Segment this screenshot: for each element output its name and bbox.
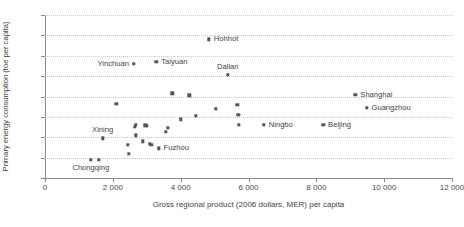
y-axis-tick bbox=[41, 97, 45, 98]
data-point-label: Guangzhou bbox=[372, 104, 411, 112]
x-axis-tick bbox=[45, 178, 46, 182]
data-point bbox=[207, 38, 210, 41]
data-point-label: Xining bbox=[92, 126, 113, 134]
x-axis-tick bbox=[384, 178, 385, 182]
y-axis-tick bbox=[41, 15, 45, 16]
data-point bbox=[214, 107, 217, 110]
data-point bbox=[262, 123, 265, 126]
data-point bbox=[134, 134, 137, 137]
data-point bbox=[236, 103, 239, 106]
x-axis-tick bbox=[452, 178, 453, 182]
data-point bbox=[97, 158, 100, 161]
x-axis-tick-label: 0 bbox=[43, 184, 47, 192]
x-axis-tick bbox=[181, 178, 182, 182]
data-point bbox=[101, 137, 104, 140]
data-point bbox=[127, 152, 130, 155]
x-axis-tick-label: 8 000 bbox=[306, 184, 326, 192]
x-axis-tick-label: 12 000 bbox=[440, 184, 464, 192]
data-point bbox=[126, 143, 129, 146]
y-axis-tick bbox=[41, 158, 45, 159]
data-point bbox=[179, 118, 182, 121]
y-axis-tick bbox=[41, 76, 45, 77]
y-axis-tick bbox=[41, 35, 45, 36]
x-axis-tick-label: 4 000 bbox=[171, 184, 191, 192]
data-point-label: Shanghai bbox=[360, 91, 392, 99]
data-point-label: Fuzhou bbox=[164, 144, 189, 152]
gridline bbox=[45, 137, 452, 139]
data-point bbox=[115, 102, 118, 105]
y-axis-tick bbox=[41, 137, 45, 138]
data-point-label: Ningbo bbox=[269, 121, 293, 129]
data-point-label: Taiyuan bbox=[161, 58, 187, 66]
gridline bbox=[45, 76, 452, 78]
data-point bbox=[164, 130, 167, 133]
data-point-label: Yinchuan bbox=[97, 60, 128, 68]
data-point bbox=[237, 123, 240, 126]
x-axis-tick-label: 6 000 bbox=[238, 184, 258, 192]
data-point bbox=[321, 123, 324, 126]
data-point bbox=[194, 114, 197, 117]
data-point bbox=[132, 62, 135, 65]
gridline bbox=[45, 158, 452, 160]
data-point bbox=[226, 73, 229, 76]
data-point bbox=[187, 94, 190, 97]
data-point bbox=[134, 123, 137, 126]
data-point bbox=[89, 158, 92, 161]
data-point bbox=[150, 143, 153, 146]
data-point bbox=[145, 124, 148, 127]
y-axis-tick bbox=[41, 56, 45, 57]
x-axis-tick bbox=[249, 178, 250, 182]
data-point bbox=[141, 140, 144, 143]
data-point bbox=[157, 147, 160, 150]
gridline bbox=[45, 56, 452, 58]
x-axis-tick-label: 10 000 bbox=[372, 184, 396, 192]
data-point bbox=[170, 92, 173, 95]
x-axis-tick-label: 2 000 bbox=[103, 184, 123, 192]
gridline bbox=[45, 35, 452, 37]
data-point-label: Beijing bbox=[328, 121, 351, 129]
data-point bbox=[365, 106, 368, 109]
data-point-label: Hohhot bbox=[214, 35, 239, 43]
data-point bbox=[237, 113, 240, 116]
data-point-label: Dalian bbox=[217, 63, 239, 71]
y-axis-title: Primary energy consumption (toe per capi… bbox=[0, 15, 11, 178]
data-point bbox=[155, 60, 158, 63]
data-point bbox=[354, 93, 357, 96]
y-axis-tick bbox=[41, 117, 45, 118]
x-axis-title: Gross regional product (2006 dollars, ME… bbox=[45, 200, 452, 210]
gridline bbox=[45, 117, 452, 119]
data-point bbox=[166, 126, 169, 129]
data-point-label: Chongqing bbox=[72, 164, 109, 172]
x-axis-tick bbox=[316, 178, 317, 182]
x-axis-tick bbox=[113, 178, 114, 182]
gridline bbox=[45, 15, 452, 17]
